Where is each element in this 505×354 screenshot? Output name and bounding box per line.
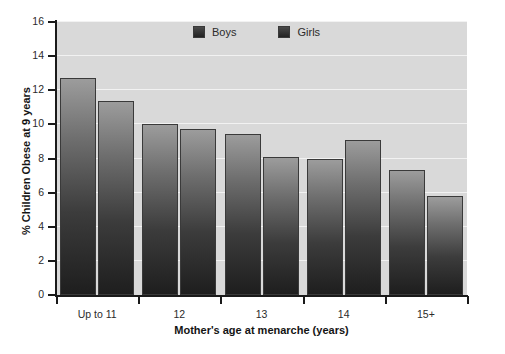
- x-axis-tick: [220, 296, 222, 304]
- legend-swatch-icon: [278, 26, 290, 38]
- plot-area: [56, 22, 467, 295]
- legend-label-boys: Boys: [212, 26, 236, 38]
- y-axis-tick: [48, 158, 56, 160]
- bar-boys-0[interactable]: [60, 78, 96, 295]
- chart-legend: Boys Girls: [193, 26, 320, 38]
- x-axis-tick: [138, 296, 140, 304]
- y-axis-tick: [48, 55, 56, 57]
- y-axis-tick-label: 0: [4, 289, 44, 299]
- x-axis-tick: [56, 296, 58, 304]
- x-axis-tick-label: 13: [220, 308, 302, 320]
- x-axis-tick-label: 12: [138, 308, 220, 320]
- legend-item-girls[interactable]: Girls: [278, 26, 320, 38]
- legend-label-girls: Girls: [297, 26, 320, 38]
- legend-item-boys[interactable]: Boys: [193, 26, 236, 38]
- bar-boys-4[interactable]: [389, 170, 425, 295]
- legend-swatch-icon: [193, 26, 205, 38]
- x-axis-label: Mother's age at menarche (years): [56, 324, 467, 336]
- y-axis-tick-label: 16: [4, 16, 44, 26]
- x-axis-tick: [385, 296, 387, 304]
- gridline: [56, 55, 467, 56]
- y-axis-tick: [48, 226, 56, 228]
- y-axis-tick-label: 14: [4, 50, 44, 60]
- y-axis-tick: [48, 192, 56, 194]
- y-axis-tick: [48, 123, 56, 125]
- y-axis-tick: [48, 89, 56, 91]
- x-axis-line: [55, 295, 468, 297]
- chart-figure: 0246810121416 Up to 1112131415+ % Childr…: [0, 0, 505, 354]
- bar-boys-1[interactable]: [142, 124, 178, 295]
- y-axis-tick: [48, 294, 56, 296]
- x-axis-tick: [467, 296, 469, 304]
- gridline: [56, 21, 467, 22]
- bar-boys-2[interactable]: [225, 134, 261, 295]
- x-axis-tick-label: 14: [303, 308, 385, 320]
- bar-girls-3[interactable]: [345, 140, 381, 295]
- x-axis-tick: [303, 296, 305, 304]
- y-axis-tick: [48, 21, 56, 23]
- x-axis-tick-label: 15+: [385, 308, 467, 320]
- bar-girls-0[interactable]: [98, 101, 134, 296]
- x-axis-tick-label: Up to 11: [56, 308, 138, 320]
- bar-boys-3[interactable]: [307, 159, 343, 296]
- bar-girls-4[interactable]: [427, 196, 463, 295]
- gridline: [56, 89, 467, 90]
- bar-girls-1[interactable]: [180, 129, 216, 295]
- y-axis-label: % Children Obese at 9 years: [20, 61, 32, 261]
- bar-girls-2[interactable]: [263, 157, 299, 295]
- y-axis-tick: [48, 260, 56, 262]
